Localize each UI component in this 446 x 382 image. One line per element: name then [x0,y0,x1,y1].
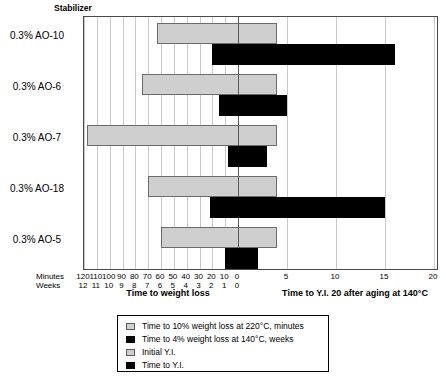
category-label-ao-7: 0.3% AO-7 [0,132,74,143]
bar-gray-0-3-ao-6 [142,74,277,95]
tick-minutes-10: 10 [220,272,229,281]
category-label-ao-5: 0.3% AO-5 [0,234,74,245]
tick-weeks-9: 9 [119,281,123,290]
bar-gray-0-3-ao-18 [148,176,277,197]
tick-weeks-12: 12 [79,281,88,290]
bar-black-0-3-ao-10 [212,44,394,65]
legend-label-3: Initial Y.I. [142,348,176,357]
tick-weeks-11: 11 [92,281,100,290]
plot-area [83,16,438,270]
bar-black-0-3-ao-7 [228,146,268,167]
tick-weeks-10: 10 [104,281,113,290]
tick-minutes-50: 50 [168,272,177,281]
legend-label-2: Time to 4% weight loss at 140°C, weeks [142,335,293,344]
legend-swatch-black-icon [126,336,135,343]
legend-swatch-black-icon [126,362,135,369]
tick-minutes-60: 60 [156,272,165,281]
legend-label-1: Time to 10% weight loss at 220°C, minute… [142,322,304,331]
tick-yi-20: 20 [429,272,438,281]
legend-item-2: Time to 4% weight loss at 140°C, weeks [126,333,328,345]
bar-gray-0-3-ao-5 [161,227,277,248]
legend-label-4: Time to Y.I. [142,361,184,370]
legend-item-1: Time to 10% weight loss at 220°C, minute… [126,320,328,332]
tick-minutes-80: 80 [130,272,139,281]
tick-minutes-70: 70 [143,272,152,281]
bar-gray-0-3-ao-7 [87,125,278,146]
legend-swatch-gray-icon [126,323,135,330]
bar-black-0-3-ao-5 [225,248,257,269]
tick-minutes-20: 20 [207,272,216,281]
tick-minutes-0: 0 [235,272,239,281]
tick-minutes-40: 40 [181,272,190,281]
tick-minutes-90: 90 [117,272,126,281]
stabilizer-column-header: Stabilizer [36,3,110,13]
legend-item-4: Time to Y.I. [126,359,328,371]
right-axis-title: Time to Y.I. 20 after aging at 140°C [282,288,428,298]
bar-chart: Stabilizer 0.3% AO-10 0.3% AO-6 0.3% AO-… [0,0,446,382]
tick-yi-10: 10 [331,272,340,281]
category-label-ao-6: 0.3% AO-6 [0,81,74,92]
bar-black-0-3-ao-18 [210,197,385,218]
tick-weeks-1: 1 [222,281,226,290]
legend-swatch-gray-icon [126,349,135,356]
tick-weeks-0: 0 [235,281,239,290]
gridline-yi-20 [434,17,435,269]
bar-gray-0-3-ao-10 [157,23,277,44]
tick-yi-15: 15 [380,272,389,281]
tick-yi-5: 5 [284,272,288,281]
gridline-minutes-120 [84,17,85,269]
tick-minutes-120: 120 [76,272,89,281]
left-axis-title: Time to weight loss [126,288,209,298]
legend-item-3: Initial Y.I. [126,346,328,358]
minutes-row-label: Minutes [36,272,64,281]
tick-minutes-30: 30 [194,272,203,281]
tick-weeks-2: 2 [209,281,213,290]
bar-black-0-3-ao-6 [219,95,287,116]
category-label-ao-10: 0.3% AO-10 [0,30,74,41]
weeks-row-label: Weeks [36,281,60,290]
tick-minutes-100: 100 [102,272,115,281]
legend: Time to 10% weight loss at 220°C, minute… [117,315,329,372]
tick-minutes-110: 110 [89,272,102,281]
category-label-ao-18: 0.3% AO-18 [0,183,74,194]
